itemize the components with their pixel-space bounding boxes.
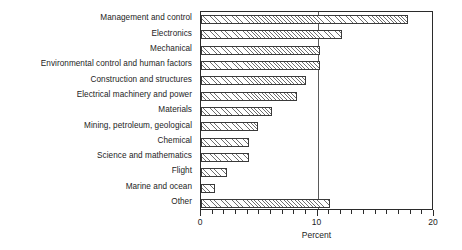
x-tick-minor bbox=[235, 210, 236, 214]
bar bbox=[201, 199, 330, 208]
x-tick-minor bbox=[351, 210, 352, 214]
x-tick-label: 20 bbox=[428, 217, 437, 227]
category-label: Chemical bbox=[157, 134, 192, 149]
x-tick-minor bbox=[421, 210, 422, 214]
x-tick-minor bbox=[305, 210, 306, 214]
x-tick-major bbox=[433, 210, 434, 216]
category-label: Marine and ocean bbox=[126, 180, 192, 195]
bar bbox=[201, 76, 306, 85]
category-label: Construction and structures bbox=[91, 73, 192, 88]
bar bbox=[201, 61, 320, 70]
bar bbox=[201, 30, 342, 39]
bar bbox=[201, 122, 258, 131]
category-label: Mechanical bbox=[150, 42, 192, 57]
x-tick-minor bbox=[375, 210, 376, 214]
x-tick-minor bbox=[328, 210, 329, 214]
category-label: Management and control bbox=[100, 11, 192, 26]
category-label: Other bbox=[171, 195, 192, 210]
category-label: Science and mathematics bbox=[97, 149, 192, 164]
x-tick-major bbox=[317, 210, 318, 216]
x-tick-label: 0 bbox=[198, 217, 203, 227]
x-tick-minor bbox=[410, 210, 411, 214]
x-tick-minor bbox=[363, 210, 364, 214]
x-tick-minor bbox=[247, 210, 248, 214]
bar bbox=[201, 153, 249, 162]
horizontal-bar-chart: Management and controlElectronicsMechani… bbox=[0, 0, 462, 250]
bar bbox=[201, 15, 408, 24]
x-tick-minor bbox=[223, 210, 224, 214]
category-label: Mining, petroleum, geological bbox=[84, 119, 192, 134]
x-axis-title: Percent bbox=[302, 230, 331, 240]
category-label: Electronics bbox=[151, 27, 192, 42]
bar bbox=[201, 168, 227, 177]
bar bbox=[201, 138, 249, 147]
x-tick-minor bbox=[282, 210, 283, 214]
bar bbox=[201, 46, 320, 55]
x-tick-minor bbox=[340, 210, 341, 214]
x-tick-minor bbox=[270, 210, 271, 214]
x-tick-minor bbox=[398, 210, 399, 214]
category-label: Electrical machinery and power bbox=[77, 88, 192, 103]
x-tick-minor bbox=[293, 210, 294, 214]
category-labels: Management and controlElectronicsMechani… bbox=[0, 11, 196, 210]
x-tick-major bbox=[200, 210, 201, 216]
category-label: Materials bbox=[158, 103, 192, 118]
x-tick-minor bbox=[386, 210, 387, 214]
gridline-10 bbox=[318, 12, 319, 209]
x-tick-label: 10 bbox=[312, 217, 321, 227]
plot-area bbox=[200, 11, 433, 210]
x-tick-minor bbox=[258, 210, 259, 214]
x-tick-minor bbox=[212, 210, 213, 214]
bar bbox=[201, 92, 297, 101]
x-axis: Percent 01020 bbox=[200, 210, 433, 250]
category-label: Environmental control and human factors bbox=[41, 57, 192, 72]
bar bbox=[201, 107, 272, 116]
bar bbox=[201, 184, 215, 193]
category-label: Flight bbox=[172, 164, 192, 179]
